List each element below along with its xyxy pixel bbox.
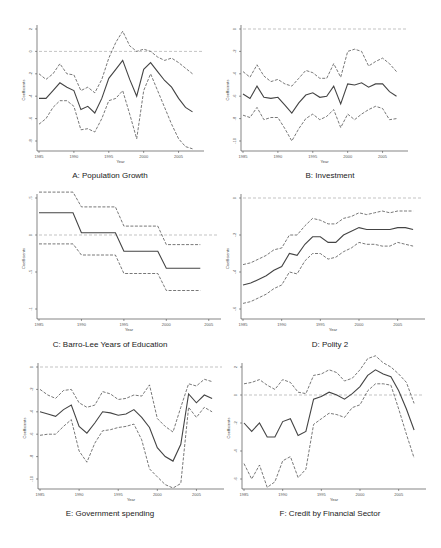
chart-svg: 0-.2-.4-.619851990199520002005YearCoeffi… [220, 180, 440, 360]
y-axis-label: Coefficients [226, 418, 231, 439]
confidence-band-line [39, 192, 200, 245]
y-tick-label: -2 [232, 49, 237, 53]
chart-panel-d: 0-.2-.4-.619851990199520002005YearCoeffi… [220, 180, 440, 360]
y-tick-label: -6 [232, 94, 237, 98]
y-tick-label: -2 [28, 71, 33, 75]
x-axis-label: Year [127, 497, 136, 502]
coefficient-line [39, 60, 193, 113]
coefficient-line [243, 228, 413, 285]
chart-panel-f: 20-2-4-619851990199520002005YearCoeffici… [220, 360, 440, 540]
confidence-band-line [243, 242, 413, 303]
x-tick-label: 1985 [240, 492, 250, 497]
y-tick-label: .5 [28, 196, 33, 200]
chart-svg: .50-.5-119851990199520002005YearCoeffici… [0, 180, 220, 360]
chart-svg: 20-2-4-6-819851990199520002005YearCoeffi… [0, 0, 220, 180]
x-tick-label: 2000 [139, 154, 149, 159]
chart-panel-c: .50-.5-119851990199520002005YearCoeffici… [0, 180, 220, 360]
y-tick-label: -1 [28, 306, 33, 310]
confidence-band-line [244, 356, 414, 404]
y-tick-label: 0 [232, 196, 237, 199]
y-axis-label: Coefficients [225, 80, 230, 101]
chart-panel-e: 0-2-4-6-8-1019851990199520002005YearCoef… [0, 360, 220, 540]
panel-caption: E: Government spending [0, 509, 220, 518]
x-tick-label: 2005 [394, 492, 404, 497]
chart-panel-b: 0-2-4-6-8-1019851990199520002005YearCoef… [220, 0, 440, 180]
x-tick-label: 2000 [356, 492, 366, 497]
x-tick-label: 1985 [35, 154, 45, 159]
y-tick-label: 0 [28, 50, 33, 53]
y-tick-label: 2 [28, 27, 33, 30]
x-axis-label: Year [329, 327, 338, 332]
confidence-band-line [243, 211, 413, 265]
x-tick-label: 1990 [75, 492, 85, 497]
y-axis-label: Coefficients [225, 248, 230, 269]
chart-svg: 0-2-4-6-8-1019851990199520002005YearCoef… [220, 0, 440, 180]
x-tick-label: 1985 [239, 322, 249, 327]
y-tick-label: -4 [29, 409, 34, 413]
y-tick-label: -.4 [232, 269, 237, 274]
x-tick-label: 1995 [114, 492, 124, 497]
x-tick-label: 2000 [343, 154, 353, 159]
y-tick-label: -10 [29, 475, 34, 482]
x-tick-label: 2005 [204, 322, 214, 327]
x-tick-label: 1995 [316, 322, 326, 327]
x-tick-label: 1990 [77, 322, 87, 327]
y-axis-label: Coefficients [22, 418, 27, 439]
y-tick-label: 0 [29, 365, 34, 368]
panel-caption: C: Barro-Lee Years of Education [0, 340, 220, 349]
x-tick-label: 1990 [273, 154, 283, 159]
y-tick-label: -10 [232, 137, 237, 144]
y-tick-label: -.2 [232, 232, 237, 237]
y-tick-label: -6 [28, 116, 33, 120]
y-tick-label: -2 [233, 420, 238, 424]
panel-caption: B: Investment [220, 171, 440, 180]
y-tick-label: -8 [28, 138, 33, 142]
x-axis-label: Year [320, 159, 329, 164]
x-tick-label: 1985 [35, 322, 45, 327]
y-tick-label: -6 [29, 432, 34, 436]
x-tick-label: 2005 [378, 154, 388, 159]
x-tick-label: 1985 [239, 154, 249, 159]
x-tick-label: 2005 [393, 322, 403, 327]
y-tick-label: -4 [232, 71, 237, 75]
x-tick-label: 2000 [355, 322, 365, 327]
coefficient-line [243, 83, 397, 113]
y-tick-label: 0 [232, 27, 237, 30]
x-axis-label: Year [116, 159, 125, 164]
x-tick-label: 2000 [162, 322, 172, 327]
y-tick-label: -4 [28, 94, 33, 98]
confidence-band-line [243, 49, 397, 86]
x-tick-label: 1990 [277, 322, 287, 327]
x-tick-label: 1995 [317, 492, 327, 497]
coefficient-line [244, 370, 414, 437]
x-tick-label: 1990 [278, 492, 288, 497]
y-tick-label: 0 [233, 393, 238, 396]
x-tick-label: 1995 [104, 154, 114, 159]
y-tick-label: -6 [233, 476, 238, 480]
x-tick-label: 1990 [69, 154, 79, 159]
y-tick-label: -.5 [28, 269, 33, 274]
x-tick-label: 1985 [36, 492, 46, 497]
confidence-band-line [40, 407, 212, 488]
y-axis-label: Coefficients [21, 248, 26, 269]
confidence-band-line [39, 244, 200, 291]
panel-caption: D: Polity 2 [220, 340, 440, 349]
panel-caption: F: Credit by Financial Sector [220, 509, 440, 518]
y-tick-label: 2 [233, 365, 238, 368]
x-tick-label: 1995 [308, 154, 318, 159]
y-tick-label: -8 [29, 454, 34, 458]
confidence-band-line [244, 384, 414, 488]
coefficient-line [39, 213, 200, 268]
y-tick-label: -4 [233, 448, 238, 452]
y-tick-label: -8 [232, 116, 237, 120]
y-axis-label: Coefficients [21, 80, 26, 101]
chart-panel-a: 20-2-4-6-819851990199520002005YearCoeffi… [0, 0, 220, 180]
x-tick-label: 2005 [192, 492, 202, 497]
x-tick-label: 2000 [153, 492, 163, 497]
x-axis-label: Year [125, 327, 134, 332]
confidence-band-line [243, 106, 397, 141]
y-tick-label: -2 [29, 387, 34, 391]
x-axis-label: Year [330, 497, 339, 502]
y-tick-label: 0 [28, 233, 33, 236]
x-tick-label: 2005 [174, 154, 184, 159]
